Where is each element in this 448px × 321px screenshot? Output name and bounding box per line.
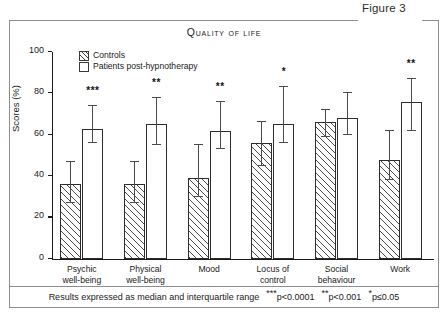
y-axis-tick-label: 60	[34, 128, 44, 138]
significance-marker: *	[282, 66, 286, 77]
error-bar-cap-lower	[194, 196, 203, 197]
footer-significance-text: p<0.0001	[277, 292, 315, 302]
error-bar-cap-upper	[257, 121, 266, 122]
error-bar-cap-upper	[66, 161, 75, 162]
y-axis-tick-label: 0	[39, 252, 44, 262]
error-bar-line	[411, 79, 412, 131]
chart-title: Quality of life	[0, 26, 448, 38]
error-bar-line	[220, 102, 221, 150]
frame-right-border	[438, 20, 439, 308]
footer-significance-text: p<0.001	[329, 292, 362, 302]
frame-top-left-segment	[9, 20, 358, 21]
error-bar-cap-upper	[194, 144, 203, 145]
footer-significance-item: ***p<0.0001	[266, 292, 314, 302]
error-bar-line	[389, 131, 390, 181]
error-bar-line	[198, 145, 199, 197]
error-bar-cap-lower	[88, 142, 97, 143]
error-bar-cap-lower	[321, 136, 330, 137]
error-bar-cap-upper	[88, 105, 97, 106]
footer-significance-item: **p<0.001	[322, 292, 362, 302]
footer-caption: Results expressed as median and interqua…	[0, 292, 448, 302]
y-axis-tick-label: 40	[34, 169, 44, 179]
y-axis-tick-label: 80	[34, 86, 44, 96]
significance-marker: **	[216, 81, 225, 92]
error-bar-cap-lower	[385, 179, 394, 180]
bar-patients	[273, 124, 294, 259]
bar-patients	[337, 118, 358, 259]
error-bar-cap-upper	[152, 97, 161, 98]
footer-caption-text: Results expressed as median and interqua…	[49, 292, 260, 302]
error-bar-line	[283, 87, 284, 143]
x-axis-category-label: Physicalwell-being	[126, 264, 165, 285]
error-bar-cap-lower	[130, 202, 139, 203]
footer-significance-stars: ***	[266, 288, 277, 298]
significance-marker: **	[152, 77, 161, 88]
figure-container: Figure 3 Quality of life Scores (%) Cont…	[0, 0, 448, 321]
frame-bottom-border	[9, 307, 439, 308]
error-bar-cap-upper	[385, 130, 394, 131]
error-bar-cap-lower	[257, 165, 266, 166]
y-axis-tick-label: 20	[34, 210, 44, 220]
error-bar-line	[134, 162, 135, 203]
footer-significance-item: *p≤0.05	[368, 292, 399, 302]
bar-patients	[210, 131, 231, 259]
x-axis-category-label: Socialbehaviour	[318, 264, 356, 285]
x-axis-category-label-line: control	[257, 275, 290, 286]
bar-patients	[82, 129, 103, 259]
y-axis-tick: 80	[48, 92, 52, 93]
error-bar-cap-upper	[279, 86, 288, 87]
frame-left-border	[9, 20, 10, 308]
y-axis-line	[52, 52, 53, 259]
x-axis-line	[52, 259, 434, 260]
y-axis-tick: 40	[48, 175, 52, 176]
x-axis-category-label-line: Locus of	[257, 264, 290, 275]
footer-significance-text: p≤0.05	[372, 292, 399, 302]
plot-area: 020406080100***Psychicwell-being**Physic…	[52, 52, 434, 259]
x-axis-category-label: Mood	[198, 264, 220, 275]
error-bar-cap-upper	[321, 109, 330, 110]
frame-top-right-segment	[422, 20, 439, 21]
figure-number-label: Figure 3	[362, 2, 406, 14]
error-bar-cap-upper	[216, 101, 225, 102]
error-bar-line	[92, 106, 93, 143]
y-axis-tick: 0	[48, 258, 52, 259]
x-axis-category-label-line: Work	[390, 264, 410, 275]
x-axis-category-label: Work	[390, 264, 410, 275]
error-bar-cap-lower	[66, 202, 75, 203]
x-axis-category-label-line: behaviour	[318, 275, 356, 286]
x-axis-category-label-line: Social	[318, 264, 356, 275]
footer-divider	[9, 286, 439, 287]
error-bar-cap-lower	[152, 144, 161, 145]
x-axis-category-label-line: Mood	[198, 264, 220, 275]
y-axis-tick: 100	[48, 51, 52, 52]
error-bar-cap-lower	[216, 148, 225, 149]
x-axis-category-label-line: well-being	[62, 275, 101, 286]
y-axis-tick-label: 100	[29, 45, 44, 55]
error-bar-cap-upper	[407, 78, 416, 79]
footer-significance-stars: **	[322, 288, 329, 298]
error-bar-line	[261, 122, 262, 165]
significance-marker: **	[407, 58, 416, 69]
footer-significance-key: ***p<0.0001**p<0.001*p≤0.05	[259, 292, 399, 302]
y-axis-title: Scores (%)	[10, 85, 21, 132]
error-bar-line	[325, 110, 326, 137]
x-axis-category-label-line: Physical	[126, 264, 165, 275]
y-axis-tick: 20	[48, 216, 52, 217]
x-axis-category-label: Locus ofcontrol	[257, 264, 290, 285]
x-axis-category-label-line: well-being	[126, 275, 165, 286]
y-axis-tick: 60	[48, 134, 52, 135]
error-bar-cap-lower	[407, 130, 416, 131]
x-axis-category-label-line: Psychic	[62, 264, 101, 275]
x-axis-category-label: Psychicwell-being	[62, 264, 101, 285]
error-bar-line	[70, 162, 71, 203]
error-bar-line	[347, 93, 348, 134]
error-bar-cap-upper	[343, 92, 352, 93]
significance-marker: ***	[86, 85, 99, 96]
error-bar-cap-lower	[343, 134, 352, 135]
bar-controls	[315, 122, 336, 259]
error-bar-cap-upper	[130, 161, 139, 162]
error-bar-cap-lower	[279, 142, 288, 143]
error-bar-line	[156, 98, 157, 146]
